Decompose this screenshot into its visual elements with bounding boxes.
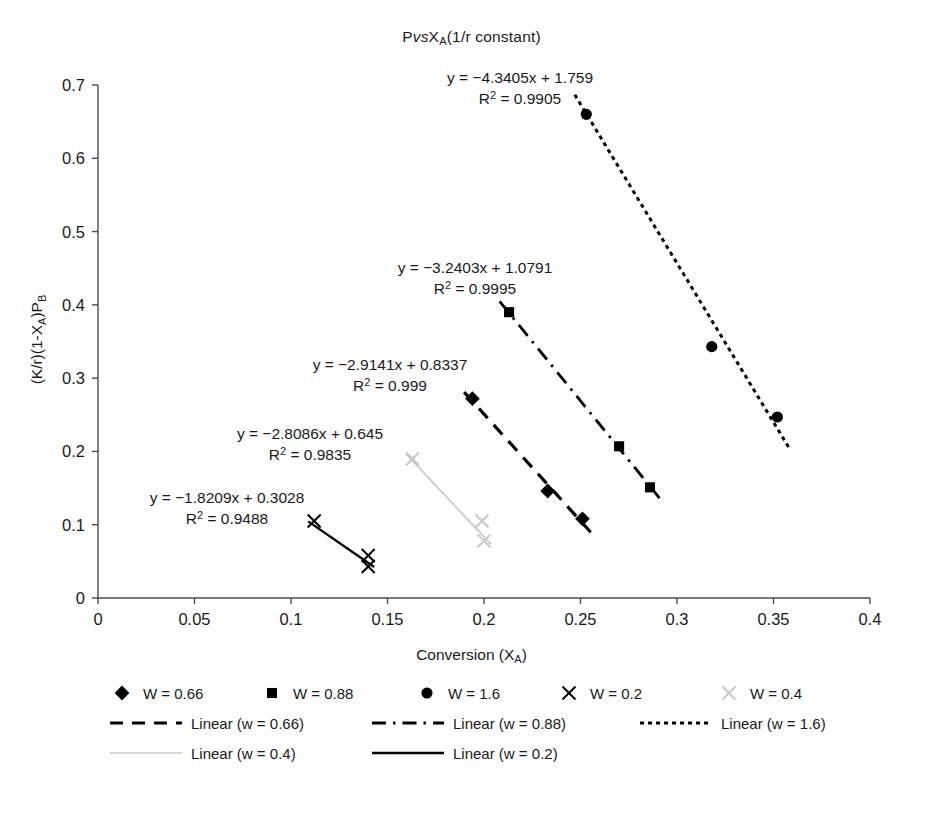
x-tick-label: 0.25 bbox=[564, 610, 596, 628]
annotation-2-line1: y = −3.2403x + 1.0791 bbox=[398, 259, 553, 276]
legend-row-lines-2: Linear (w = 0.4)Linear (w = 0.2) bbox=[105, 738, 905, 768]
legend-marker-item[interactable]: W = 1.6 bbox=[410, 682, 552, 704]
data-marker-circle bbox=[581, 109, 592, 120]
legend-marker-circle bbox=[416, 682, 438, 704]
y-tick-label: 0.4 bbox=[62, 296, 85, 314]
x-tick-label: 0.2 bbox=[473, 610, 496, 628]
annotation-equation-5: y = −1.8209x + 0.3028 R2 = 0.9488 bbox=[92, 488, 362, 530]
chart-root: PvsXA(1/r constant) 00.050.10.150.20.250… bbox=[0, 0, 943, 817]
data-marker-cross bbox=[563, 687, 576, 700]
legend-marker-swatch bbox=[552, 682, 586, 704]
legend-line-swatch bbox=[105, 715, 187, 731]
legend-line-label: Linear (w = 0.88) bbox=[449, 715, 566, 732]
legend-marker-cross bbox=[718, 682, 740, 704]
y-axis-label: (K/r)(1-XA)PB bbox=[28, 210, 47, 470]
legend-line-item[interactable]: Linear (w = 1.6) bbox=[635, 715, 885, 732]
y-tick-label: 0.6 bbox=[62, 149, 85, 167]
legend-marker-swatch bbox=[255, 682, 289, 704]
annotation-equation-4: y = −2.8086x + 0.645 R2 = 0.9835 bbox=[175, 424, 445, 466]
y-tick-label: 0.2 bbox=[62, 442, 85, 460]
y-tick-label: 0.7 bbox=[62, 76, 85, 94]
chart-legend: W = 0.66W = 0.88W = 1.6W = 0.2W = 0.4 Li… bbox=[105, 678, 905, 768]
x-tick-label: 0.15 bbox=[371, 610, 403, 628]
annotation-1-line1: y = −4.3405x + 1.759 bbox=[447, 69, 593, 86]
legend-line-label: Linear (w = 0.66) bbox=[187, 715, 304, 732]
legend-line-swatch bbox=[367, 715, 449, 731]
legend-marker-cross bbox=[558, 682, 580, 704]
y-axis-label-a: (K/r)(1-X bbox=[28, 325, 45, 384]
legend-line-label: Linear (w = 1.6) bbox=[717, 715, 826, 732]
legend-line-item[interactable]: Linear (w = 0.4) bbox=[105, 745, 367, 762]
y-axis-label-subscript-b: B bbox=[36, 295, 48, 302]
annotation-3-line1: y = −2.9141x + 0.8337 bbox=[313, 356, 468, 373]
x-tick-label: 0.4 bbox=[859, 610, 882, 628]
legend-marker-swatch bbox=[105, 682, 139, 704]
legend-line-swatch bbox=[635, 715, 717, 731]
legend-marker-label: W = 0.2 bbox=[586, 685, 642, 702]
data-marker-diamond bbox=[575, 511, 590, 526]
series-4 bbox=[406, 452, 491, 547]
y-tick-label: 0.1 bbox=[62, 516, 85, 534]
legend-line-dotted bbox=[638, 715, 714, 731]
annotation-4-line1: y = −2.8086x + 0.645 bbox=[237, 425, 383, 442]
y-axis-label-subscript-a: A bbox=[36, 318, 48, 325]
series-1 bbox=[500, 301, 660, 498]
data-marker-circle bbox=[772, 411, 783, 422]
x-axis-label-tail: ) bbox=[522, 646, 527, 663]
y-tick-label: 0.5 bbox=[62, 223, 85, 241]
data-marker-square bbox=[645, 482, 655, 492]
trendline bbox=[500, 301, 660, 498]
legend-marker-label: W = 0.4 bbox=[746, 685, 802, 702]
series-0 bbox=[464, 391, 591, 532]
data-marker-square bbox=[504, 307, 514, 317]
legend-marker-item[interactable]: W = 0.88 bbox=[255, 682, 410, 704]
x-tick-label: 0.1 bbox=[280, 610, 303, 628]
legend-marker-label: W = 1.6 bbox=[444, 685, 500, 702]
annotation-4-line2: R2 = 0.9835 bbox=[175, 444, 445, 465]
legend-line-label: Linear (w = 0.4) bbox=[187, 745, 296, 762]
legend-marker-item[interactable]: W = 0.2 bbox=[552, 682, 712, 704]
legend-line-dashed bbox=[108, 715, 184, 731]
data-marker-diamond bbox=[540, 484, 555, 499]
legend-line-solid-light bbox=[108, 745, 184, 761]
x-tick-label: 0.05 bbox=[178, 610, 210, 628]
annotation-2-line2: R2 = 0.9995 bbox=[340, 278, 610, 299]
legend-row-markers: W = 0.66W = 0.88W = 1.6W = 0.2W = 0.4 bbox=[105, 678, 905, 708]
legend-line-dash-dot bbox=[370, 715, 446, 731]
legend-row-lines-1: Linear (w = 0.66)Linear (w = 0.88)Linear… bbox=[105, 708, 905, 738]
legend-marker-diamond bbox=[111, 682, 133, 704]
x-axis-label: Conversion (XA) bbox=[0, 646, 943, 665]
legend-line-solid bbox=[370, 745, 446, 761]
x-tick-label: 0.3 bbox=[666, 610, 689, 628]
trendline bbox=[464, 392, 591, 532]
legend-marker-item[interactable]: W = 0.66 bbox=[105, 682, 255, 704]
data-marker-circle bbox=[421, 687, 432, 698]
legend-line-item[interactable]: Linear (w = 0.88) bbox=[367, 715, 635, 732]
y-tick-label: 0 bbox=[76, 589, 85, 607]
data-marker-square bbox=[267, 688, 277, 698]
legend-marker-square bbox=[261, 682, 283, 704]
annotation-5-line1: y = −1.8209x + 0.3028 bbox=[150, 489, 305, 506]
legend-marker-label: W = 0.88 bbox=[289, 685, 353, 702]
legend-line-swatch bbox=[367, 745, 449, 761]
legend-marker-swatch bbox=[410, 682, 444, 704]
x-tick-label: 0.35 bbox=[757, 610, 789, 628]
y-tick-label: 0.3 bbox=[62, 369, 85, 387]
legend-marker-swatch bbox=[712, 682, 746, 704]
data-marker-cross bbox=[362, 549, 375, 562]
data-marker-cross bbox=[476, 515, 489, 528]
annotation-3-line2: R2 = 0.999 bbox=[255, 375, 525, 396]
data-marker-diamond bbox=[115, 686, 130, 701]
data-marker-circle bbox=[706, 341, 717, 352]
data-marker-square bbox=[614, 441, 624, 451]
legend-marker-item[interactable]: W = 0.4 bbox=[712, 682, 872, 704]
x-axis-label-subscript: A bbox=[514, 653, 521, 665]
legend-line-swatch bbox=[105, 745, 187, 761]
legend-line-item[interactable]: Linear (w = 0.2) bbox=[367, 745, 635, 762]
x-axis-label-main: Conversion (X bbox=[416, 646, 514, 663]
y-axis-label-b: )P bbox=[28, 302, 45, 318]
legend-line-item[interactable]: Linear (w = 0.66) bbox=[105, 715, 367, 732]
annotation-equation-2: y = −3.2403x + 1.0791 R2 = 0.9995 bbox=[340, 258, 610, 300]
annotation-5-line2: R2 = 0.9488 bbox=[92, 508, 362, 529]
legend-marker-label: W = 0.66 bbox=[139, 685, 203, 702]
